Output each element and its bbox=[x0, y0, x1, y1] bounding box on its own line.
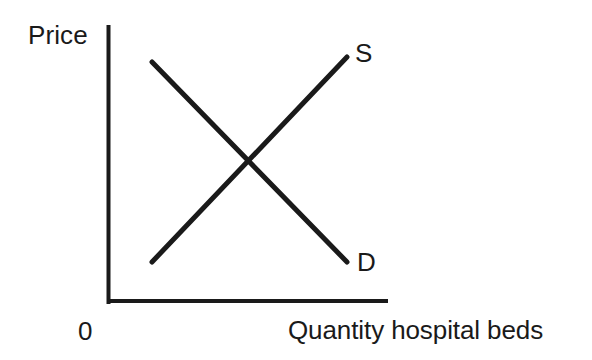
supply-demand-figure: Price 0 Quantity hospital beds S D bbox=[0, 0, 592, 360]
origin-label: 0 bbox=[78, 318, 92, 344]
demand-curve-label: D bbox=[357, 249, 376, 275]
x-axis-title: Quantity hospital beds bbox=[288, 317, 543, 343]
supply-curve-label: S bbox=[355, 40, 372, 66]
y-axis-title: Price bbox=[28, 22, 88, 48]
plot-area bbox=[0, 0, 592, 360]
